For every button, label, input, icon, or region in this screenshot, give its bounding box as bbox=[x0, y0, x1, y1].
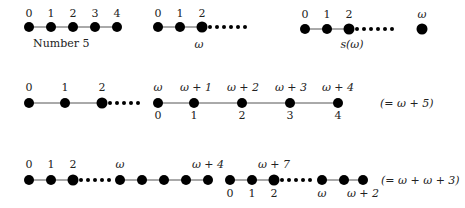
diagram-caption: s(ω) bbox=[340, 38, 363, 51]
equals-annotation: (= ω + 5) bbox=[380, 97, 433, 110]
node bbox=[358, 175, 368, 185]
node-index-label: 0 bbox=[227, 187, 234, 200]
node-label: 1 bbox=[62, 81, 69, 94]
node bbox=[46, 175, 56, 185]
ordinal-diagrams: 0 1 2 3 4 Number 5 0 1 2 ω bbox=[0, 0, 465, 208]
node-label: ω + 2 bbox=[227, 81, 259, 94]
node-label: 1 bbox=[48, 158, 55, 171]
node-label: 0 bbox=[155, 7, 162, 20]
successor-omega-diagram: 0 1 2 ω s(ω) bbox=[300, 8, 428, 51]
node bbox=[24, 98, 34, 108]
node bbox=[60, 98, 70, 108]
node-label: 2 bbox=[199, 7, 206, 20]
node-label: 2 bbox=[346, 8, 353, 21]
node bbox=[153, 22, 163, 32]
node bbox=[137, 175, 147, 185]
node-index-label: 2 bbox=[271, 187, 278, 200]
node bbox=[344, 24, 355, 35]
node-label: 4 bbox=[114, 7, 121, 20]
node bbox=[203, 175, 213, 185]
node bbox=[24, 175, 34, 185]
node bbox=[159, 175, 169, 185]
node bbox=[90, 22, 100, 32]
node-index-label: 2 bbox=[239, 109, 246, 122]
node-label: 1 bbox=[177, 7, 184, 20]
node-label: 0 bbox=[26, 158, 33, 171]
node-index-label: ω + 2 bbox=[347, 187, 379, 200]
node-label: 2 bbox=[99, 81, 106, 94]
node bbox=[46, 22, 56, 32]
node bbox=[300, 24, 310, 34]
ellipsis-dots bbox=[208, 25, 247, 29]
node-label: ω bbox=[418, 8, 427, 21]
node-label: 1 bbox=[324, 8, 331, 21]
node bbox=[197, 22, 208, 33]
node-label: ω + 1 bbox=[180, 81, 212, 94]
node bbox=[317, 175, 327, 185]
node bbox=[112, 22, 122, 32]
ellipsis-dots bbox=[355, 27, 394, 31]
node bbox=[68, 22, 78, 32]
node bbox=[181, 175, 191, 185]
node bbox=[247, 175, 257, 185]
node-label: ω + 4 bbox=[322, 81, 354, 94]
node bbox=[97, 98, 108, 109]
node-label: 0 bbox=[26, 81, 33, 94]
node-index-label: 1 bbox=[249, 187, 256, 200]
diagram-caption: ω bbox=[195, 38, 204, 51]
node bbox=[24, 22, 34, 32]
ellipsis-dots bbox=[79, 178, 111, 182]
node-index-label: 0 bbox=[155, 109, 162, 122]
node bbox=[115, 175, 125, 185]
node bbox=[322, 24, 332, 34]
node bbox=[153, 98, 163, 108]
isolated-omega-node bbox=[417, 24, 428, 35]
ellipsis-dots bbox=[108, 101, 140, 105]
ellipsis-dots bbox=[280, 178, 312, 182]
node bbox=[68, 175, 79, 186]
node bbox=[269, 175, 280, 186]
node-label: 2 bbox=[70, 7, 77, 20]
omega-plus-omega-plus-3-diagram: 0 1 2 ω ω + 4 ω + 7 0 1 2 ω ω + 2 (= ω +… bbox=[24, 158, 460, 200]
omega-diagram: 0 1 2 ω bbox=[153, 7, 247, 51]
node-label: ω + 7 bbox=[258, 158, 290, 171]
node-index-label: 3 bbox=[287, 109, 294, 122]
number-5-diagram: 0 1 2 3 4 Number 5 bbox=[24, 7, 122, 50]
node-index-label: ω bbox=[318, 187, 327, 200]
node-label: 1 bbox=[48, 7, 55, 20]
node bbox=[333, 98, 343, 108]
node bbox=[225, 175, 235, 185]
node bbox=[285, 98, 295, 108]
node-index-label: 4 bbox=[335, 109, 342, 122]
node bbox=[175, 22, 185, 32]
equals-annotation: (= ω + ω + 3) bbox=[381, 174, 460, 187]
node-label: ω + 3 bbox=[275, 81, 307, 94]
node bbox=[339, 175, 349, 185]
node-label: ω bbox=[154, 81, 163, 94]
omega-plus-5-diagram: 0 1 2 ω ω + 1 ω + 2 ω + 3 ω + 4 0 1 2 3 … bbox=[24, 81, 433, 122]
node-label: 0 bbox=[26, 7, 33, 20]
node-label: 3 bbox=[92, 7, 99, 20]
node-label: ω + 4 bbox=[192, 158, 224, 171]
node-index-label: 1 bbox=[191, 109, 198, 122]
node-label: 2 bbox=[70, 158, 77, 171]
diagram-caption: Number 5 bbox=[33, 37, 89, 50]
node-label: ω bbox=[116, 158, 125, 171]
node-label: 0 bbox=[302, 8, 309, 21]
node bbox=[237, 98, 247, 108]
node bbox=[189, 98, 199, 108]
